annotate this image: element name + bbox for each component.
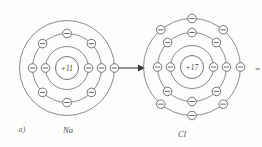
sodium-nucleus: +11 <box>56 57 79 80</box>
electron <box>188 97 197 106</box>
electron <box>219 100 228 109</box>
electron <box>209 63 218 72</box>
atom-chlorine: +17 <box>144 14 245 120</box>
electron <box>28 64 37 73</box>
electron <box>188 111 197 120</box>
chlorine-nucleus-label: +17 <box>186 63 199 72</box>
electron <box>63 98 72 107</box>
electron <box>87 39 96 48</box>
sodium-nucleus-label: +11 <box>61 64 73 73</box>
electron <box>166 63 175 72</box>
electron <box>157 26 166 35</box>
electron <box>63 29 72 38</box>
chlorine-nucleus: +17 <box>181 56 204 79</box>
electron <box>38 39 47 48</box>
electron <box>87 88 96 97</box>
atom-sodium: +11 <box>20 21 119 116</box>
electron <box>41 64 50 73</box>
atomic-structure-figure: +11 <box>0 0 262 147</box>
panel-label: a) <box>19 125 26 134</box>
electron <box>153 63 162 72</box>
electron <box>163 87 172 96</box>
atom-diagram-canvas: +11 <box>0 0 262 147</box>
electron <box>188 14 197 23</box>
electron <box>84 64 93 73</box>
electron-transfer-arrow <box>119 65 145 72</box>
electron <box>188 28 197 37</box>
electron <box>222 63 231 72</box>
electron <box>212 38 221 47</box>
sodium-symbol-label: Na <box>62 125 73 135</box>
electron <box>236 63 245 72</box>
electron <box>157 100 166 109</box>
chlorine-symbol-label: Cl <box>178 129 187 139</box>
electron <box>38 88 47 97</box>
equals-glyph-cropped: = <box>255 64 260 74</box>
electron <box>212 87 221 96</box>
electron <box>97 64 106 73</box>
electron <box>219 26 228 35</box>
electron <box>163 38 172 47</box>
sodium-valence-electron <box>110 64 119 73</box>
